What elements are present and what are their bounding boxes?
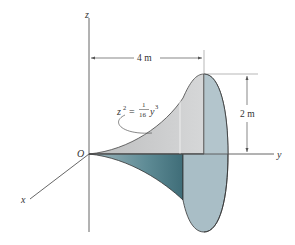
equation-leader [119,115,152,133]
svg-text:2: 2 [123,104,126,111]
horn-solid-diagram: z y x O 4 m 2 m z 2 = 1 16 y 3 [0,0,295,245]
x-axis-label: x [20,194,26,205]
lower-surface [89,154,183,200]
svg-text:16: 16 [139,111,147,119]
svg-text:=: = [129,106,135,117]
svg-text:3: 3 [155,103,158,110]
svg-text:z: z [116,106,121,117]
x-axis [30,154,89,199]
end-disk-upper [204,74,228,154]
upper-surface [89,74,204,154]
svg-text:1: 1 [142,101,146,109]
dim-2m-label: 2 m [240,109,255,119]
z-axis-label: z [84,9,89,20]
y-axis-label: y [276,149,282,160]
origin-label: O [77,148,84,159]
dim-4m-label: 4 m [137,53,152,63]
